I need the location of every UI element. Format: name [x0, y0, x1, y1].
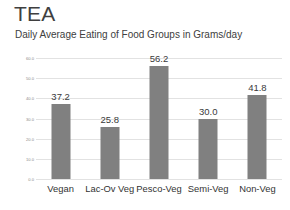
gridline [36, 179, 282, 180]
y-axis-tick-label: 20.0 [4, 136, 34, 141]
bar[interactable] [100, 127, 119, 179]
bar[interactable] [149, 66, 168, 179]
y-axis-tick-label: 60.0 [4, 56, 34, 61]
x-axis-tick-label: Non-Veg [239, 183, 275, 195]
bar-value-label: 25.8 [101, 114, 120, 125]
bar-group: 56.2 [134, 58, 183, 179]
y-axis-tick-label: 50.0 [4, 76, 34, 81]
bars-layer: 37.225.856.230.041.8 [36, 58, 282, 179]
chart-subtitle: Daily Average Eating of Food Groups in G… [15, 28, 242, 41]
bar-value-label: 30.0 [199, 106, 218, 117]
bar-group: 25.8 [85, 58, 134, 179]
chart-page: TEA Daily Average Eating of Food Groups … [0, 0, 290, 210]
x-axis: VeganLac-Ov VegPesco-VegSemi-VegNon-Veg [36, 183, 282, 201]
bar[interactable] [51, 104, 70, 179]
bar-group: 41.8 [233, 58, 282, 179]
page-title: TEA [14, 2, 55, 26]
x-axis-tick-label: Pesco-Veg [136, 183, 181, 195]
x-axis-tick-label: Lac-Ov Veg [85, 183, 134, 195]
bar[interactable] [248, 95, 267, 179]
y-axis-tick-label: 10.0 [4, 156, 34, 161]
y-axis-tick-label: 40.0 [4, 96, 34, 101]
bar-group: 30.0 [184, 58, 233, 179]
bar-value-label: 56.2 [150, 53, 169, 64]
bar-value-label: 41.8 [248, 82, 267, 93]
y-axis-tick-label: 0.0 [4, 177, 34, 182]
bar-group: 37.2 [36, 58, 85, 179]
chart-header: TEA Daily Average Eating of Food Groups … [0, 0, 290, 48]
x-axis-tick-label: Semi-Veg [188, 183, 229, 195]
y-axis: 60.050.040.030.020.010.00.0 [0, 58, 34, 179]
y-axis-tick-label: 30.0 [4, 116, 34, 121]
bar-value-label: 37.2 [51, 91, 70, 102]
bar[interactable] [199, 119, 218, 180]
x-axis-tick-label: Vegan [47, 183, 74, 195]
